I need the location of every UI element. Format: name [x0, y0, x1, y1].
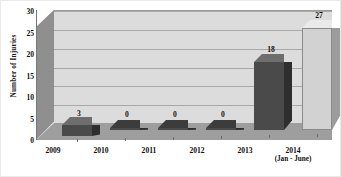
bar-label-2010: 0: [107, 111, 147, 119]
bar-2014-side: [332, 28, 340, 130]
bar-2013-side: [284, 62, 292, 130]
x-tick-2010-label: 2010: [93, 146, 108, 155]
y-axis-line: [36, 10, 37, 140]
bar-2010[interactable]: [110, 128, 140, 130]
plot-area: 3 0 0 0 18: [36, 10, 332, 140]
x-tick-2014-sublabel: (Jan - June): [265, 155, 321, 164]
bar-2013-front: [254, 62, 284, 130]
bar-2010-front: [110, 128, 140, 130]
y-tick-10: 10: [18, 94, 34, 102]
x-tick-2014: 2014 (Jan - June): [265, 146, 321, 164]
bar-2009-side: [92, 125, 100, 136]
bar-label-2012: 0: [203, 111, 243, 119]
x-tick-2009-label: 2009: [45, 146, 60, 155]
gridline-30: [54, 11, 332, 12]
bar-2012-side: [236, 128, 244, 130]
x-tick-2013-label: 2013: [237, 146, 252, 155]
bar-label-2011: 0: [155, 111, 195, 119]
plot-left-wall: [36, 10, 54, 140]
y-tick-0: 0: [18, 137, 34, 145]
bar-2009-front: [62, 125, 92, 136]
x-tickmark-0: [77, 139, 78, 142]
x-tickmark-5: [317, 134, 318, 137]
bar-2010-side: [140, 128, 148, 130]
bar-2012[interactable]: [206, 128, 236, 130]
bar-2013[interactable]: [254, 62, 284, 130]
bar-2009[interactable]: [62, 125, 92, 136]
y-tick-15: 15: [18, 73, 34, 81]
y-tick-25: 25: [18, 30, 34, 38]
y-tick-20: 20: [18, 51, 34, 59]
x-tick-2014-label: 2014: [285, 146, 300, 155]
y-tick-30: 30: [18, 8, 34, 16]
gridline-25: [54, 30, 332, 31]
bar-label-2013: 18: [251, 46, 291, 54]
bar-2014-front: [302, 28, 332, 130]
bar-2014[interactable]: [302, 28, 332, 130]
bar-chart: Number of Injuries 30 25 20 15 10 5 0: [0, 0, 341, 177]
y-tick-5: 5: [18, 116, 34, 124]
x-tick-2011-label: 2011: [142, 146, 157, 155]
x-tickmark-1: [125, 138, 126, 141]
bar-2011-side: [188, 128, 196, 130]
bar-2011-front: [158, 128, 188, 130]
bar-label-2009: 3: [59, 110, 99, 118]
bar-label-2014: 27: [299, 12, 339, 20]
x-tickmark-3: [221, 136, 222, 139]
x-tickmark-4: [269, 135, 270, 138]
x-tickmark-2: [173, 137, 174, 140]
x-tick-2012-label: 2012: [189, 146, 204, 155]
bar-2012-front: [206, 128, 236, 130]
bar-2011[interactable]: [158, 128, 188, 130]
